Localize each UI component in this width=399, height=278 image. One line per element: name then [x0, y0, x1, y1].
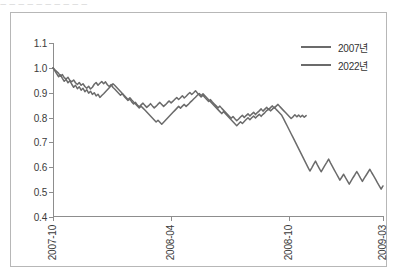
legend-swatch-2022 [301, 64, 331, 66]
legend-label-2022: 2022년 [338, 58, 368, 73]
page-bleed-text: ㅡ ㅡ ㅡ ㅡ ㅡ ㅡ ㅡ ㅡ ㅡ ㅡ [0, 0, 87, 9]
chart-legend: 2007년 2022년 [299, 35, 395, 78]
legend-label-2007: 2007년 [338, 40, 368, 55]
y-tick-label: 0.5 [34, 187, 47, 198]
page-bleed-artifact: ㅡ ㅡ ㅡ ㅡ ㅡ ㅡ ㅡ ㅡ ㅡ ㅡ [0, 0, 399, 9]
figure-container: ㅡ ㅡ ㅡ ㅡ ㅡ ㅡ ㅡ ㅡ ㅡ ㅡ 1.11.00.90.80.70.60.… [0, 0, 399, 278]
y-tick-label: 0.7 [34, 137, 47, 148]
y-tick-label: 0.6 [34, 162, 47, 173]
x-tick-label: 2009-03 [377, 225, 388, 260]
series-line-2007년 [53, 68, 306, 121]
legend-item-2022[interactable]: 2022년 [301, 56, 393, 74]
y-tick-label: 0.8 [34, 112, 47, 123]
x-tick-label: 2008-10 [283, 225, 294, 260]
legend-swatch-2007 [301, 46, 331, 48]
y-tick-label: 1.1 [34, 38, 47, 49]
legend-item-2007[interactable]: 2007년 [301, 38, 393, 56]
y-tick-label: 1.0 [34, 62, 47, 73]
x-tick-label: 2007-10 [47, 225, 58, 260]
x-tick-label: 2008-04 [165, 225, 176, 260]
y-tick-label: 0.9 [34, 87, 47, 98]
series-line-2022년 [53, 68, 383, 189]
y-tick-label: 0.4 [34, 212, 47, 223]
x-tick-mark [383, 216, 384, 221]
chart-frame: 1.11.00.90.80.70.60.50.4 2007-102008-042… [10, 12, 387, 267]
